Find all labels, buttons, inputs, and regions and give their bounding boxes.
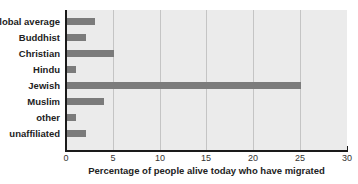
x-tick-label: 10	[150, 153, 170, 163]
x-tick-label: 30	[337, 153, 357, 163]
x-axis	[65, 150, 348, 152]
category-label: other	[36, 112, 60, 124]
x-tick	[347, 146, 348, 151]
x-tick-label: 15	[196, 153, 216, 163]
bar-christian	[67, 50, 114, 57]
x-axis-title: Percentage of people alive today who hav…	[66, 165, 347, 176]
y-axis	[65, 10, 67, 151]
bar-other	[67, 114, 76, 121]
bar-global-average	[67, 18, 95, 25]
x-tick-label: 25	[290, 153, 310, 163]
gridline	[160, 10, 161, 150]
bar-unaffiliated	[67, 130, 86, 137]
bar-jewish	[67, 82, 301, 89]
category-label: Jewish	[28, 80, 60, 92]
category-label: Hindu	[33, 64, 60, 76]
category-label: Muslim	[27, 96, 60, 108]
gridline	[300, 10, 301, 150]
bar-hindu	[67, 66, 76, 73]
plot-area	[66, 10, 347, 150]
gridline	[253, 10, 254, 150]
bar-buddhist	[67, 34, 86, 41]
x-tick-label: 0	[56, 153, 76, 163]
category-label: Global average	[0, 16, 60, 28]
gridline	[206, 10, 207, 150]
x-tick-label: 5	[103, 153, 123, 163]
x-tick-label: 20	[243, 153, 263, 163]
category-label: Buddhist	[19, 32, 60, 44]
bar-muslim	[67, 98, 104, 105]
gridline	[113, 10, 114, 150]
category-label: Christian	[19, 48, 60, 60]
category-label: unaffiliated	[9, 128, 60, 140]
